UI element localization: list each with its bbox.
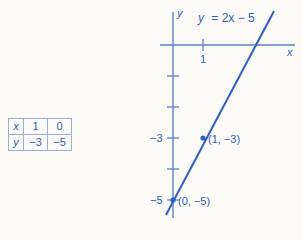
value-table: x 1 0 y −3 −5 bbox=[8, 118, 72, 151]
equation-label: y = 2x − 5 bbox=[197, 11, 255, 25]
point-1-neg3 bbox=[200, 135, 205, 140]
table-cell-y-0: −3 bbox=[24, 135, 48, 151]
point-label-0-neg5: (0, −5) bbox=[178, 195, 210, 207]
table-row-header-x: x bbox=[9, 119, 24, 135]
table-cell-x-1: 0 bbox=[48, 119, 72, 135]
table-row: y −3 −5 bbox=[9, 135, 72, 151]
x-tick-label-1: 1 bbox=[200, 53, 206, 65]
table-row-header-y: y bbox=[9, 135, 24, 151]
y-axis-label: y bbox=[176, 7, 184, 19]
y-tick-label-minus3: −3 bbox=[150, 132, 163, 144]
table-cell-x-0: 1 bbox=[24, 119, 48, 135]
table-row: x 1 0 bbox=[9, 119, 72, 135]
point-label-1-neg3: (1, −3) bbox=[208, 133, 240, 145]
x-axis-label: x bbox=[286, 46, 293, 58]
figure-canvas: y x 1 −3 −5 (1, −3) (0, −5) y = 2x − 5 x… bbox=[0, 0, 302, 240]
equation-lhs: y bbox=[197, 11, 205, 25]
table-cell-y-1: −5 bbox=[48, 135, 72, 151]
y-tick-label-minus5: −5 bbox=[150, 194, 163, 206]
plotted-line bbox=[166, 11, 274, 215]
point-0-neg5 bbox=[170, 197, 175, 202]
equation-rhs: = 2x − 5 bbox=[211, 11, 255, 25]
